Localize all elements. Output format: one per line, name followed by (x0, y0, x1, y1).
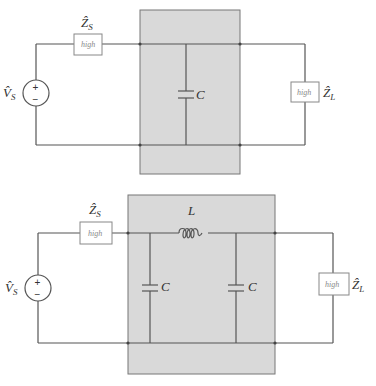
source-impedance-value: high (81, 40, 95, 49)
source-impedance-label: ẐS (89, 202, 101, 219)
node (126, 231, 129, 234)
capacitor-label: C (248, 279, 257, 294)
node (126, 341, 129, 344)
node (273, 231, 276, 234)
svg-text:−: − (35, 289, 41, 300)
svg-text:−: − (33, 94, 39, 105)
node (238, 143, 241, 146)
capacitor-label: C (161, 279, 170, 294)
source-label: V̂S (5, 280, 18, 297)
node (238, 42, 241, 45)
source-impedance-value: high (88, 229, 102, 238)
node (138, 143, 141, 146)
network-shaded-region (140, 10, 240, 174)
voltage-source-icon: + − (25, 275, 51, 301)
source-impedance-label: ẐS (81, 15, 93, 32)
capacitor-label: C (196, 87, 205, 102)
load-impedance-value: high (325, 280, 339, 289)
bottom-circuit: L C C + − V̂S high ẐS high (5, 195, 364, 374)
top-circuit: C + − V̂S high ẐS high ẐL (3, 10, 335, 174)
source-label: V̂S (3, 85, 16, 102)
load-impedance-label: ẐL (323, 85, 335, 102)
svg-text:+: + (33, 82, 39, 93)
svg-text:+: + (35, 277, 41, 288)
load-impedance-label: ẐL (352, 277, 364, 294)
node (138, 42, 141, 45)
load-impedance-value: high (297, 88, 311, 97)
circuit-diagram: C + − V̂S high ẐS high ẐL (0, 0, 376, 386)
inductor-label: L (187, 203, 195, 218)
node (273, 341, 276, 344)
voltage-source-icon: + − (23, 80, 49, 106)
